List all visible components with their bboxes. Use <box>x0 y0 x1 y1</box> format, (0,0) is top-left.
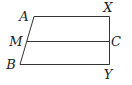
geometry-diagram: A X M C B Y <box>0 0 132 85</box>
label-M: M <box>8 34 23 49</box>
label-Y: Y <box>104 67 114 82</box>
label-A: A <box>18 9 28 24</box>
label-C: C <box>111 34 121 49</box>
label-B: B <box>5 57 16 72</box>
label-X: X <box>102 0 113 15</box>
